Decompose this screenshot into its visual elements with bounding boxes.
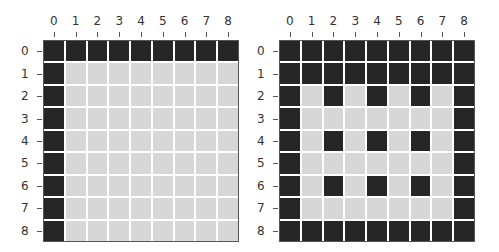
y-tick-label: 1	[13, 67, 43, 81]
grid-cell	[367, 108, 387, 128]
grid-cell	[411, 198, 431, 218]
grid-cell	[88, 41, 108, 61]
grid-cell	[345, 86, 365, 106]
grid-cell	[196, 198, 216, 218]
y-tick-mark	[273, 141, 278, 142]
grid-cell	[345, 176, 365, 196]
y-tick-mark	[273, 51, 278, 52]
x-tick-text: 0	[50, 14, 58, 28]
grid-cell	[411, 176, 431, 196]
grid-cell	[389, 221, 409, 241]
y-tick-label: 6	[249, 179, 279, 193]
y-tick-text: 8	[21, 224, 29, 238]
grid-cell	[432, 41, 452, 61]
grid-cell	[367, 41, 387, 61]
y-tick-label: 5	[249, 156, 279, 170]
x-tick-label: 8	[218, 14, 238, 28]
grid-cell	[109, 86, 129, 106]
grid-cell	[345, 41, 365, 61]
grid-cell	[109, 131, 129, 151]
x-tick-mark	[206, 32, 207, 37]
x-tick-label: 2	[87, 14, 107, 28]
grid-cell	[175, 108, 195, 128]
grid-cell	[454, 41, 474, 61]
grid-cell	[44, 131, 64, 151]
grid-cell	[324, 176, 344, 196]
y-tick-label: 2	[249, 89, 279, 103]
x-tick-mark	[333, 32, 334, 37]
x-tick-label: 0	[280, 14, 300, 28]
grid-cell	[175, 63, 195, 83]
y-tick-text: 1	[257, 67, 265, 81]
grid-cell	[454, 221, 474, 241]
y-tick-label: 1	[249, 67, 279, 81]
x-tick-mark	[141, 32, 142, 37]
y-tick-text: 8	[257, 224, 265, 238]
grid-cell	[218, 86, 238, 106]
x-tick-mark	[228, 32, 229, 37]
grid-cell	[432, 63, 452, 83]
grid-cell	[109, 198, 129, 218]
grid-cell	[280, 176, 300, 196]
grid-cell	[454, 108, 474, 128]
grid-cell	[88, 86, 108, 106]
y-tick-text: 1	[21, 67, 29, 81]
grid-cell	[196, 108, 216, 128]
grid-cell	[411, 131, 431, 151]
y-tick-label: 6	[13, 179, 43, 193]
x-tick-text: 2	[330, 14, 338, 28]
grid-cell	[389, 86, 409, 106]
grid-cell	[302, 108, 322, 128]
x-tick-text: 7	[203, 14, 211, 28]
x-tick-text: 4	[373, 14, 381, 28]
x-tick-text: 6	[417, 14, 425, 28]
grid-cell	[280, 63, 300, 83]
grid-cell	[131, 176, 151, 196]
grid-cell	[196, 86, 216, 106]
x-tick-mark	[119, 32, 120, 37]
grid-cell	[280, 41, 300, 61]
x-tick-text: 0	[286, 14, 294, 28]
x-tick-mark	[163, 32, 164, 37]
y-tick-mark	[37, 208, 42, 209]
grid-cell	[324, 86, 344, 106]
grid-cell	[175, 131, 195, 151]
grid-cell	[218, 176, 238, 196]
grid-cell	[345, 131, 365, 151]
x-tick-mark	[185, 32, 186, 37]
y-tick-mark	[273, 208, 278, 209]
grid-cell	[153, 41, 173, 61]
grid-cell	[324, 153, 344, 173]
grid-cell	[44, 221, 64, 241]
x-tick-text: 8	[224, 14, 232, 28]
grid-cell	[88, 108, 108, 128]
x-tick-label: 7	[196, 14, 216, 28]
grid-cell	[131, 41, 151, 61]
x-tick-label: 7	[432, 14, 452, 28]
x-tick-mark	[97, 32, 98, 37]
y-tick-text: 6	[257, 179, 265, 193]
grid-cell	[389, 153, 409, 173]
x-tick-text: 5	[395, 14, 403, 28]
grid-cell	[432, 176, 452, 196]
grid-cell	[411, 153, 431, 173]
y-tick-mark	[37, 119, 42, 120]
grid-cell	[196, 153, 216, 173]
grid-cell	[324, 198, 344, 218]
x-tick-text: 3	[115, 14, 123, 28]
grid-cell	[153, 176, 173, 196]
grid-cell	[66, 176, 86, 196]
grid-cell	[432, 131, 452, 151]
grid-cell	[302, 41, 322, 61]
grid-cell	[345, 108, 365, 128]
y-tick-mark	[273, 119, 278, 120]
grid-cell	[196, 221, 216, 241]
x-tick-text: 7	[439, 14, 447, 28]
y-tick-text: 2	[257, 89, 265, 103]
grid-cell	[88, 153, 108, 173]
grid-cell	[131, 63, 151, 83]
grid-cell	[367, 176, 387, 196]
grid-cell	[175, 41, 195, 61]
x-tick-label: 5	[153, 14, 173, 28]
x-tick-mark	[312, 32, 313, 37]
